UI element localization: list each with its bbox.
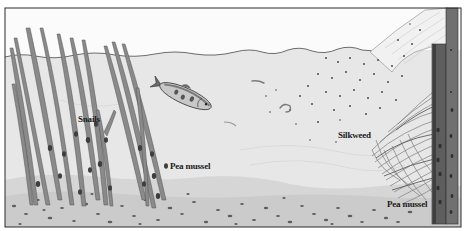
label-snails: Snails [78, 115, 100, 124]
label-pea-mussel-right: Pea mussel [387, 200, 427, 209]
pond-scene-svg [0, 0, 464, 231]
label-pea-mussel-left: Pea mussel [170, 162, 210, 171]
pond-illustration [0, 0, 464, 231]
label-silkweed: Silkweed [338, 131, 371, 140]
